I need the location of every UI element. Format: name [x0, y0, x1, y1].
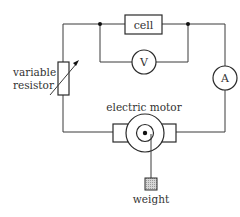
- junction-left-dot: [98, 22, 102, 26]
- junction-right-dot: [186, 22, 190, 26]
- voltmeter-label: V: [139, 56, 149, 69]
- motor-axle-dot: [143, 131, 147, 135]
- electric-motor: [113, 114, 176, 152]
- voltmeter: V: [132, 50, 156, 74]
- motor-label: electric motor: [106, 101, 182, 113]
- circuit-diagram: cell V A variable resistor electric moto…: [0, 0, 240, 217]
- resistor-label-line2: resistor: [13, 79, 55, 91]
- cell-label: cell: [134, 19, 154, 32]
- ammeter: A: [213, 66, 237, 90]
- arrowhead-icon: [73, 60, 79, 66]
- cell: cell: [125, 15, 162, 34]
- weight-label: weight: [133, 193, 170, 205]
- resistor-label-line1: variable: [12, 66, 56, 78]
- weight-block: [145, 178, 157, 190]
- ammeter-label: A: [220, 72, 230, 85]
